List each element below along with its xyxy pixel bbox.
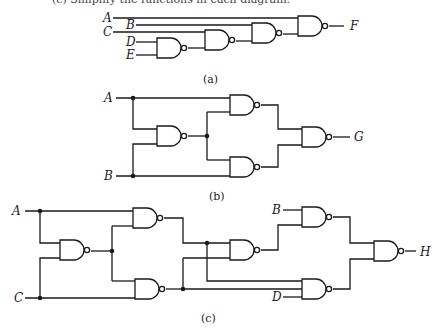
wire-topright-out — [333, 217, 374, 243]
top-caption: (c) Simplify the functions in each diagr… — [52, 0, 290, 6]
nand-gate-c6 — [302, 279, 332, 299]
junction-dot — [181, 287, 186, 292]
input-label-a: A — [102, 11, 112, 25]
nand-gate-b1 — [157, 126, 187, 146]
junction-dot — [38, 296, 43, 301]
input-label-a: A — [11, 204, 21, 218]
input-label-e: E — [125, 48, 135, 62]
junction-dot — [38, 209, 43, 214]
circuit-a: A B C D E F (a) — [102, 11, 359, 86]
wire-b-mid — [133, 144, 157, 176]
input-label-a: A — [103, 91, 113, 105]
wire-a-mid — [133, 98, 157, 129]
wire-mid-out — [261, 225, 302, 250]
junction-dot — [205, 241, 210, 246]
nand-gate-c2 — [133, 208, 163, 228]
wire-top-out — [164, 218, 230, 243]
input-label-c: C — [14, 291, 23, 305]
wire-top-out — [261, 105, 302, 129]
output-label-f: F — [349, 19, 359, 33]
input-label-b: B — [103, 169, 113, 183]
nand-gate-c1 — [60, 240, 90, 260]
input-label-d: D — [271, 290, 282, 304]
input-label-b: B — [125, 18, 135, 32]
input-label-b: B — [271, 203, 281, 217]
nand-circuit-figure: (c) Simplify the functions in each diagr… — [0, 0, 434, 330]
nand-gate-c3 — [135, 279, 165, 299]
nand-gate-a2 — [205, 30, 235, 50]
nand-gate-a1 — [157, 38, 187, 58]
nand-gate-b3 — [230, 157, 260, 177]
input-label-d: D — [125, 35, 136, 49]
circuit-b: A B G (b) — [103, 91, 364, 203]
nand-gate-b4 — [302, 127, 332, 147]
wire-a-left — [40, 211, 60, 243]
output-label-h: H — [419, 245, 431, 259]
nand-gate-a4 — [298, 16, 328, 36]
junction-dot — [110, 249, 115, 254]
wire-bottom-out — [261, 145, 302, 167]
junction-dot — [205, 134, 210, 139]
caption-b: (b) — [209, 190, 225, 203]
nand-gate-c4 — [230, 240, 260, 260]
clipped-top-text: (c) Simplify the functions in each diagr… — [52, 0, 290, 6]
wire-c-left — [40, 258, 60, 298]
junction-dot — [131, 174, 136, 179]
caption-c: (c) — [201, 312, 216, 325]
nand-gate-a3 — [252, 23, 282, 43]
wire-bottomright-out — [333, 259, 374, 289]
nand-gate-c5 — [302, 207, 332, 227]
nand-gate-c7 — [374, 241, 404, 261]
junction-dot — [131, 96, 136, 101]
circuit-c: A C B D — [11, 203, 431, 325]
caption-a: (a) — [203, 73, 218, 86]
input-label-c: C — [103, 25, 112, 39]
nand-gate-b2 — [230, 95, 260, 115]
output-label-g: G — [354, 130, 364, 144]
